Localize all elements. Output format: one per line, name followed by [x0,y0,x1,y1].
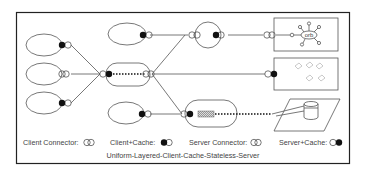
object-store-server [265,58,338,90]
orb-server: orb [264,18,338,51]
legend-server-cache: Server+Cache: [279,138,342,147]
legend: Client Connector: Client+Cache: Server C… [23,138,342,147]
orb-label: orb [305,32,314,38]
stateless-server [181,100,272,127]
svg-text:Client+Cache:: Client+Cache: [110,138,155,147]
central-proxy [100,63,154,86]
client-lower [108,102,151,124]
gateway-node [189,22,224,48]
client-3 [26,92,71,114]
legend-client-cache: Client+Cache: [110,138,172,147]
rest-style-diagram: orb [0,0,366,178]
legend-server-connector: Server Connector: [189,138,261,147]
legend-client-connector: Client Connector: [23,138,94,147]
client-2 [26,63,69,85]
svg-text:Server Connector:: Server Connector: [189,138,247,147]
svg-text:Client Connector:: Client Connector: [23,138,79,147]
database [272,99,340,131]
client-1 [26,34,71,56]
svg-text:Server+Cache:: Server+Cache: [279,138,327,147]
client-top [108,23,152,45]
diagram-caption: Uniform-Layered-Client-Cache-Stateless-S… [107,151,261,160]
